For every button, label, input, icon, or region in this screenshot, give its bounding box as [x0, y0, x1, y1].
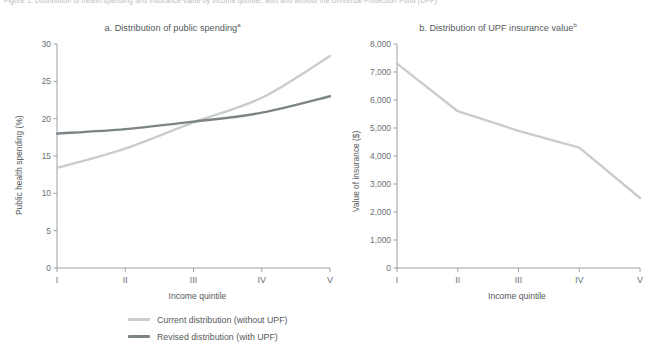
x-tick-label: II: [455, 275, 460, 285]
x-tick-label: V: [327, 275, 333, 285]
panel-b-plot: 01,0002,0003,0004,0005,0006,0007,0008,00…: [340, 18, 656, 300]
y-tick-label: 8,000: [370, 39, 391, 49]
series-line: [57, 56, 330, 168]
x-tick-label: I: [56, 275, 59, 285]
y-tick-label: 0: [386, 263, 391, 273]
legend-label-current: Current distribution (without UPF): [157, 315, 288, 325]
y-tick-label: 20: [42, 114, 52, 124]
y-tick-label: 30: [42, 39, 52, 49]
panel-a-x-axis-title: Income quintile: [55, 291, 340, 301]
figure-caption: Figure 1. Distribution of health spendin…: [4, 0, 652, 5]
chart-legend: Current distribution (without UPF) Revis…: [128, 311, 458, 345]
legend-label-revised: Revised distribution (with UPF): [157, 332, 278, 342]
y-tick-label: 7,000: [370, 67, 391, 77]
panel-b-x-axis-title: Income quintile: [392, 291, 642, 301]
y-tick-label: 15: [42, 151, 52, 161]
y-tick-label: 5: [46, 226, 51, 236]
panel-a-plot: 051015202530IIIIIIIVV: [0, 18, 345, 300]
panel-a-y-axis-title: Public health spending (%): [14, 115, 24, 215]
y-tick-label: 10: [42, 188, 52, 198]
y-tick-label: 4,000: [370, 151, 391, 161]
legend-item-revised: Revised distribution (with UPF): [128, 328, 458, 345]
chart-panel-b: b. Distribution of UPF insurance valueb …: [340, 18, 656, 300]
y-tick-label: 2,000: [370, 207, 391, 217]
legend-line-swatch-icon: [128, 318, 150, 321]
panel-b-y-axis-title: Value of insurance ($): [351, 131, 361, 212]
x-tick-label: III: [190, 275, 198, 285]
series-line: [57, 96, 330, 133]
y-tick-label: 0: [46, 263, 51, 273]
x-tick-label: I: [396, 275, 399, 285]
x-tick-label: II: [123, 275, 128, 285]
series-line: [397, 64, 640, 198]
legend-line-swatch-icon: [128, 335, 150, 338]
x-tick-label: IV: [575, 275, 584, 285]
y-tick-label: 6,000: [370, 95, 391, 105]
figure-root: Figure 1. Distribution of health spendin…: [0, 0, 656, 353]
x-tick-label: V: [637, 275, 643, 285]
y-tick-label: 25: [42, 76, 52, 86]
y-tick-label: 3,000: [370, 179, 391, 189]
y-tick-label: 5,000: [370, 123, 391, 133]
x-tick-label: III: [515, 275, 523, 285]
y-tick-label: 1,000: [370, 235, 391, 245]
chart-panel-a: a. Distribution of public spendinga 0510…: [0, 18, 345, 300]
x-tick-label: IV: [257, 275, 266, 285]
legend-item-current: Current distribution (without UPF): [128, 311, 458, 328]
